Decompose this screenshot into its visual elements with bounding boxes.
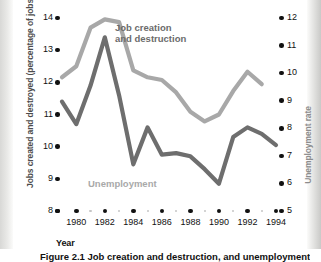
y-axis-right-tick-label: 8 — [287, 122, 292, 132]
series-line-job-creation-and-destruction — [62, 37, 276, 183]
y-axis-left-tick-label: 10 — [38, 141, 53, 151]
y-axis-left-tick-label: 9 — [38, 173, 53, 183]
x-axis-tick-label: 1980 — [62, 217, 90, 227]
x-axis-tick-label: 1986 — [148, 217, 176, 227]
y-axis-left-tick-dot — [55, 177, 60, 182]
x-axis-tick-dot — [74, 209, 79, 214]
y-axis-right-tick-label: 7 — [287, 150, 292, 160]
x-axis-minor-tick-dot — [147, 210, 149, 212]
y-axis-right-tick-dot — [279, 126, 284, 131]
y-axis-left-tick-label: 12 — [38, 76, 53, 86]
y-axis-left-tick-label: 14 — [38, 12, 53, 22]
annotation-unemployment: Unemployment — [88, 178, 157, 189]
y-axis-right-tick-dot — [279, 43, 284, 48]
y-axis-left-tick-dot — [55, 16, 60, 21]
y-axis-left-tick-dot — [55, 48, 60, 53]
y-axis-right-tick-dot — [279, 154, 284, 159]
y-axis-right-tick-dot — [279, 209, 284, 214]
y-axis-left-tick-dot — [55, 80, 60, 85]
y-axis-right-tick-dot — [279, 98, 284, 103]
x-axis-tick-label: 1982 — [91, 217, 119, 227]
x-axis-tick-dot — [245, 209, 250, 214]
y-axis-right-tick-label: 5 — [287, 205, 292, 215]
x-axis-tick-label: 1992 — [233, 217, 261, 227]
y-axis-right-tick-dot — [279, 71, 284, 76]
x-axis-origin-dot — [55, 209, 60, 214]
y-axis-left-tick-label: 11 — [38, 109, 53, 119]
y-axis-right-tick-label: 11 — [287, 40, 296, 50]
x-axis-minor-tick-dot — [261, 210, 263, 212]
y-axis-right-tick-dot — [279, 181, 284, 186]
y-axis-right-tick-label: 12 — [287, 12, 297, 22]
x-axis-tick-label: 1990 — [205, 217, 233, 227]
annotation-job-creation: Job creation and destruction — [115, 22, 186, 44]
x-axis-tick-label: 1988 — [176, 217, 204, 227]
x-axis-minor-tick-dot — [89, 210, 91, 212]
y-axis-right-tick-label: 9 — [287, 95, 292, 105]
y-axis-right-tick-dot — [279, 16, 284, 21]
y-axis-left-tick-dot — [55, 144, 60, 149]
figure-caption: Figure 2.1 Job creation and destruction,… — [40, 251, 310, 262]
y-axis-right-tick-label: 6 — [287, 177, 292, 187]
y-axis-right-tick-label: 10 — [287, 67, 297, 77]
x-axis-minor-tick-dot — [204, 210, 206, 212]
x-axis-tick-dot — [188, 209, 193, 214]
y-axis-left-tick-dot — [55, 112, 60, 117]
x-axis-tick-label: 1984 — [119, 217, 147, 227]
x-axis-tick-label: 1994 — [262, 217, 290, 227]
x-axis-tick-dot — [131, 209, 136, 214]
y-axis-left-tick-label: 8 — [38, 205, 53, 215]
y-axis-left-tick-label: 13 — [38, 44, 53, 54]
